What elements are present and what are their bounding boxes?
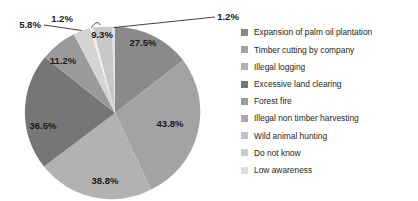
- legend-item-label: Timber cutting by company: [254, 46, 354, 54]
- legend-item-forest-fire[interactable]: Forest fire: [241, 93, 418, 110]
- legend-swatch-icon: [241, 81, 248, 88]
- legend-item-expansion-of-palm-oil-plantation[interactable]: Expansion of palm oil plantation: [241, 24, 418, 41]
- legend-item-label: Excessive land clearing: [254, 80, 342, 88]
- legend-item-label: Illegal non timber harvesting: [254, 114, 359, 122]
- legend-item-label: Low awareness: [254, 166, 312, 174]
- legend-item-illegal-logging[interactable]: Illegal logging: [241, 58, 418, 75]
- legend-item-label: Forest fire: [254, 97, 292, 105]
- legend-item-excessive-land-clearing[interactable]: Excessive land clearing: [241, 76, 418, 93]
- legend-item-low-awareness[interactable]: Low awareness: [241, 162, 418, 179]
- legend-item-wild-animal-hunting[interactable]: Wild animal hunting: [241, 127, 418, 144]
- legend-item-timber-cutting-by-company[interactable]: Timber cutting by company: [241, 41, 418, 58]
- callout-label-wild-animal-hunting: 1.2%: [51, 13, 73, 24]
- callout-label-illegal-non-timber-harvesting: 5.8%: [19, 19, 41, 30]
- legend-swatch-icon: [241, 63, 248, 70]
- pie-chart-graphic: 27.5% 43.8% 38.8% 36.5% 11.2% 9.3% 5.8% …: [0, 0, 240, 201]
- legend-swatch-icon: [241, 115, 248, 122]
- slice-label-excessive-land-clearing: 36.5%: [30, 120, 57, 131]
- leader-line-illegal-non-timber-harvesting: [44, 25, 82, 31]
- legend-swatch-icon: [241, 167, 248, 174]
- legend-item-label: Wild animal hunting: [254, 132, 327, 140]
- legend-swatch-icon: [241, 46, 248, 53]
- leader-line-low-awareness: [114, 17, 216, 28]
- legend-item-label: Expansion of palm oil plantation: [254, 28, 372, 36]
- legend-item-label: Illegal logging: [254, 63, 305, 71]
- chart-legend: Expansion of palm oil plantation Timber …: [241, 24, 418, 179]
- slice-label-expansion-of-palm-oil-plantation: 27.5%: [130, 37, 157, 48]
- slice-label-illegal-logging: 38.8%: [92, 175, 119, 186]
- slice-label-timber-cutting-by-company: 43.8%: [157, 118, 184, 129]
- legend-swatch-icon: [241, 29, 248, 36]
- slice-label-do-not-know: 9.3%: [91, 29, 113, 40]
- legend-swatch-icon: [241, 98, 248, 105]
- legend-swatch-icon: [241, 149, 248, 156]
- pie-chart-figure: 27.5% 43.8% 38.8% 36.5% 11.2% 9.3% 5.8% …: [0, 0, 418, 201]
- legend-item-illegal-non-timber-harvesting[interactable]: Illegal non timber harvesting: [241, 110, 418, 127]
- legend-item-label: Do not know: [254, 149, 301, 157]
- callout-label-low-awareness: 1.2%: [217, 11, 239, 22]
- legend-item-do-not-know[interactable]: Do not know: [241, 144, 418, 161]
- slice-label-forest-fire: 11.2%: [50, 55, 77, 66]
- legend-swatch-icon: [241, 132, 248, 139]
